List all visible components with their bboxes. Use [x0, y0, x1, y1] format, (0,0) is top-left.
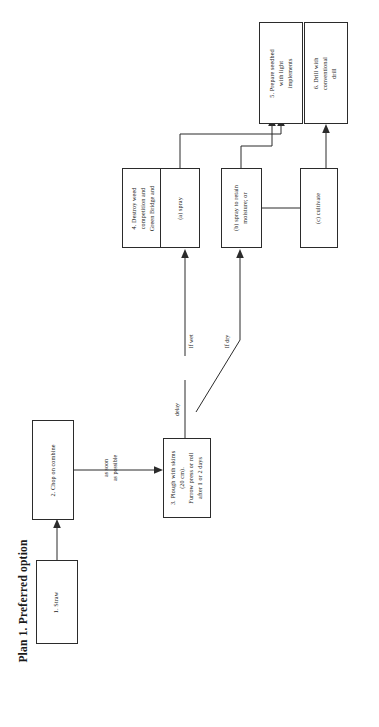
edge-spray-to-seedbed — [180, 126, 281, 134]
node-prepare-seedbed: 5. Prepare seedbedwith lightimplements — [259, 22, 303, 124]
arrowhead-cultivate-to-drill — [322, 124, 330, 133]
node-straw-label: 1. Straw — [53, 591, 62, 612]
node-plough-label: 3. Plough with skims(20 cm).Furrow press… — [169, 451, 205, 505]
node-chop-label: 2. Chop on combine — [49, 444, 58, 496]
node-retain-label: (b) spray to retainmoisture; or — [233, 185, 251, 231]
node-plough-with-skims: 3. Plough with skims(20 cm).Furrow press… — [163, 438, 211, 518]
figure-title-text: Plan 1. Preferred option — [17, 539, 29, 662]
node-cultivate: (c) cultivate — [300, 168, 338, 248]
arrowhead-chop-to-plough — [154, 466, 163, 474]
node-straw: 1. Straw — [36, 560, 78, 644]
node-spray-label: (a) spray — [176, 197, 185, 220]
edge-label-if-wet-text: If wet — [186, 334, 195, 348]
node-spray-to-retain-moisture: (b) spray to retainmoisture; or — [221, 168, 262, 248]
edge-label-delay: delay — [160, 398, 194, 420]
node-seedbed-label: 5. Prepare seedbedwith lightimplements — [268, 49, 295, 97]
arrowhead-delay-to-spray — [181, 249, 189, 258]
node-drill-label: 6. Drill withconventionaldrill — [313, 56, 340, 89]
node-spray: (a) spray — [160, 168, 200, 248]
edge-retain-to-seedbed — [241, 126, 272, 146]
edge-label-if-wet: If wet — [176, 330, 206, 352]
edge-label-as-soon-as-possible-text: as soonas possible — [102, 455, 120, 481]
edge-label-if-dry: If dry — [213, 330, 243, 352]
diagram-canvas: Plan 1. Preferred option — [0, 0, 379, 727]
edge-label-delay-text: delay — [173, 403, 182, 416]
node-chop-on-combine: 2. Chop on combine — [32, 420, 74, 520]
node-cultivate-label: (c) cultivate — [315, 192, 324, 223]
edge-label-as-soon-as-possible: as soonas possible — [92, 438, 130, 498]
arrowhead-ifdry-to-retain — [236, 249, 244, 258]
node-drill-with-conventional-drill: 6. Drill withconventionaldrill — [304, 22, 348, 124]
arrowhead-straw-to-chop — [53, 519, 61, 528]
node-destroy-label: 4. Destroy weedcompetition andGreen Brid… — [131, 185, 158, 231]
edge-label-if-dry-text: If dry — [224, 334, 233, 348]
